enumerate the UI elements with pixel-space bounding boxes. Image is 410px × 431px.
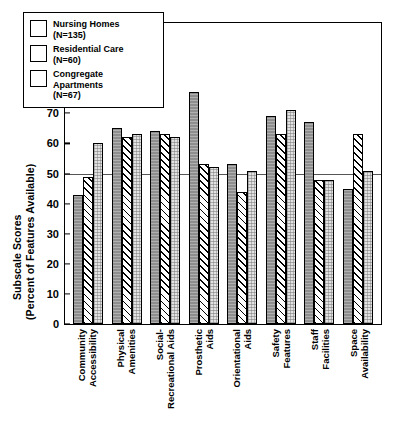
bar-residential-care-prosthetic-aids [199,164,209,324]
y-tick-label-50: 50 [47,168,65,180]
bar-residential-care-staff-facilities [314,180,324,324]
x-tick-label-prosthetic-aids: ProstheticAids [193,329,215,375]
bar-residential-care-space-availability [353,134,363,324]
legend-swatch-congregate-apartments [30,70,47,87]
bar-nursing-homes-orientational-aids [227,164,237,324]
legend-label-congregate-line1: Congregate [53,69,103,80]
y-tick-mark-30 [65,233,70,234]
bar-group-safety-features [262,23,301,324]
chart-legend: Nursing Homes (N=135) Residential Care (… [23,12,164,108]
bar-congregate-apartments-safety-features [286,110,296,324]
bar-group-staff-facilities [300,23,339,324]
bar-nursing-homes-prosthetic-aids [189,92,199,324]
legend-label-congregate-line2: Apartments [53,80,103,91]
bar-congregate-apartments-space-availability [363,171,373,325]
x-tick-label-social-recreational-aids: Social-Recreational Aids [154,329,176,409]
x-tick-label-orientational-aids: OrientationalAids [231,329,253,388]
y-tick-mark-60 [65,143,70,144]
bar-residential-care-orientational-aids [237,192,247,324]
x-label-cell-6: StaffFacilities [301,325,340,425]
bar-residential-care-social-recreational-aids [160,134,170,324]
legend-n-nursing-homes: (N=135) [53,30,120,41]
bar-congregate-apartments-community-accessibility [93,143,103,324]
legend-item-nursing-homes: Nursing Homes (N=135) [30,19,158,40]
y-tick-mark-70 [65,113,70,114]
legend-n-residential-care: (N=60) [53,55,124,66]
x-tick-label-community-accessibility: CommunityAccessibility [76,329,98,387]
legend-swatch-residential-care [30,45,47,62]
bar-group-orientational-aids [223,23,262,324]
x-label-cell-1: PhysicalAmenities [107,325,146,425]
bar-group-space-availability [339,23,378,324]
legend-item-residential-care: Residential Care (N=60) [30,44,158,65]
legend-label-residential-care: Residential Care [53,44,124,55]
legend-n-congregate-apartments: (N=67) [53,90,103,101]
y-tick-mark-20 [65,263,70,264]
x-label-cell-5: SafetyFeatures [262,325,301,425]
bar-congregate-apartments-physical-amenities [132,134,142,324]
bar-residential-care-community-accessibility [83,177,93,324]
x-label-cell-0: CommunityAccessibility [68,325,107,425]
x-label-cell-3: ProstheticAids [184,325,223,425]
bar-congregate-apartments-staff-facilities [324,180,334,324]
y-tick-label-10: 10 [47,288,65,300]
bar-nursing-homes-staff-facilities [304,122,314,324]
x-tick-label-staff-facilities: StaffFacilities [309,329,331,370]
y-axis-title-line2: (Percent of Features Available) [24,164,37,320]
x-axis-labels: CommunityAccessibilityPhysicalAmenitiesS… [64,325,382,425]
y-tick-mark-10 [65,293,70,294]
bar-nursing-homes-community-accessibility [73,195,83,324]
y-axis-title-line1: Subscale Scores [11,214,24,300]
legend-item-congregate-apartments: Congregate Apartments (N=67) [30,69,158,101]
legend-label-nursing-homes: Nursing Homes [53,19,120,30]
y-tick-label-60: 60 [47,137,65,149]
bar-residential-care-safety-features [276,134,286,324]
y-tick-label-40: 40 [47,198,65,210]
x-tick-label-space-availability: SpaceAvailability [348,329,370,379]
y-tick-mark-50 [65,173,70,174]
bar-chart-figure: Subscale Scores (Percent of Features Ava… [0,0,410,431]
x-label-cell-7: SpaceAvailability [339,325,378,425]
bar-congregate-apartments-orientational-aids [247,171,257,325]
bar-nursing-homes-space-availability [343,189,353,324]
bar-congregate-apartments-prosthetic-aids [209,167,219,324]
x-tick-label-safety-features: SafetyFeatures [270,329,292,369]
y-tick-label-20: 20 [47,258,65,270]
legend-swatch-nursing-homes [30,20,47,37]
x-tick-label-physical-amenities: PhysicalAmenities [115,329,137,374]
bar-nursing-homes-physical-amenities [112,128,122,324]
y-tick-mark-40 [65,203,70,204]
bar-residential-care-physical-amenities [122,137,132,324]
bar-congregate-apartments-social-recreational-aids [170,137,180,324]
x-label-cell-2: Social-Recreational Aids [146,325,185,425]
bar-group-prosthetic-aids [185,23,224,324]
bar-nursing-homes-social-recreational-aids [150,131,160,324]
y-tick-label-30: 30 [47,228,65,240]
x-label-cell-4: OrientationalAids [223,325,262,425]
bar-nursing-homes-safety-features [266,116,276,324]
y-tick-label-70: 70 [47,107,65,119]
